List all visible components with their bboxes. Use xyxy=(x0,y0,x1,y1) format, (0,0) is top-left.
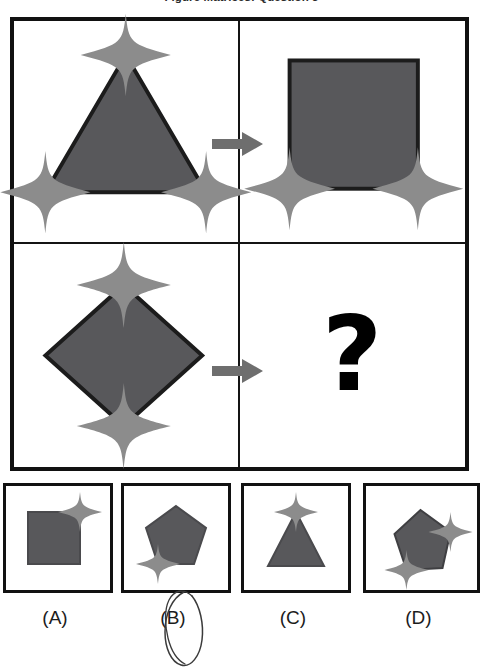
question-mark-placeholder: ? xyxy=(240,301,466,405)
answer-option-c[interactable] xyxy=(241,483,351,593)
square-shape xyxy=(289,60,417,188)
matrix-cell-bottom-left xyxy=(14,244,240,467)
answer-option-label-d: (D) xyxy=(360,607,477,629)
answer-options-row xyxy=(3,483,480,593)
matrix-cell-top-left xyxy=(14,21,240,244)
option-d-figure xyxy=(366,486,477,590)
square-shape xyxy=(28,512,80,564)
answer-option-label-b: (B) xyxy=(118,607,228,629)
option-a-figure xyxy=(6,486,110,590)
answer-option-d[interactable] xyxy=(363,483,480,593)
answer-option-a[interactable] xyxy=(3,483,113,593)
page-title: Figure Matrices: Question 3 xyxy=(0,0,483,3)
figure-matrix: ? xyxy=(10,17,469,471)
pentagon-shape xyxy=(146,506,206,564)
matrix-grid: ? xyxy=(14,21,465,467)
diamond-with-two-stars-figure xyxy=(14,244,238,467)
answer-option-label-c: (C) xyxy=(238,607,348,629)
matrix-cell-top-right xyxy=(240,21,466,244)
star-icon xyxy=(274,492,318,532)
matrix-cell-bottom-right: ? xyxy=(240,244,466,467)
answer-option-b[interactable] xyxy=(121,483,231,593)
square-with-two-stars-figure xyxy=(240,21,466,242)
option-b-figure xyxy=(124,486,228,590)
star-icon xyxy=(81,14,171,96)
pentagon-rotated-shape xyxy=(395,510,451,570)
option-c-figure xyxy=(244,486,348,590)
answer-option-label-a: (A) xyxy=(0,607,110,629)
triangle-with-three-stars-figure xyxy=(14,21,238,242)
